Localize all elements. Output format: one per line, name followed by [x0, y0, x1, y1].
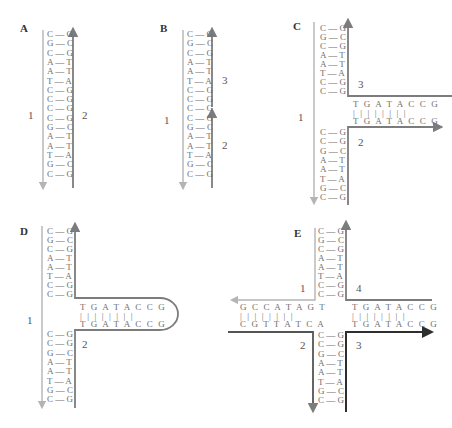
base-pair: C — G	[320, 87, 346, 96]
strand-label-2: 2	[358, 136, 364, 148]
strand-label-3: 3	[356, 339, 362, 351]
base-pair: C — G	[47, 395, 73, 404]
strand-label-1: 1	[28, 109, 34, 121]
strand-label-2: 2	[300, 339, 306, 351]
holliday-junction-figure: A 1 2 C — GG — CC — GA — TA — TT — AC — …	[0, 0, 452, 428]
panel-e-left-bottom: C G T T A T C A	[240, 320, 325, 329]
panel-e-right-bottom: T G A T A C C G	[352, 320, 438, 329]
panel-label-a: A	[20, 22, 28, 34]
base-pair: C — G	[47, 290, 73, 299]
base-pair: C — G	[318, 396, 344, 405]
panel-label-d: D	[20, 225, 28, 237]
strand-label-4: 4	[356, 282, 362, 294]
strand-label-1: 1	[300, 282, 306, 294]
base-pair: C — G	[187, 170, 213, 179]
base-pair: C — G	[318, 290, 344, 299]
strand-label-3: 3	[222, 74, 228, 86]
panel-label-e: E	[294, 227, 301, 239]
panel-label-b: B	[160, 22, 167, 34]
base-pair: C — G	[47, 170, 73, 179]
strand-label-2: 2	[222, 139, 228, 151]
strand-label-2: 2	[82, 109, 88, 121]
base-pair: C — G	[320, 193, 346, 202]
strand-label-2: 2	[82, 338, 88, 350]
panel-label-c: C	[293, 20, 301, 32]
panel-d-loop-bottom: T G A T A C C G	[80, 320, 166, 329]
panel-c-hairpin-bottom: T G A T A C C G	[353, 117, 439, 126]
strand-label-1: 1	[298, 111, 304, 123]
strand-label-1: 1	[27, 314, 33, 326]
strand-label-3: 3	[358, 78, 364, 90]
strand-label-1: 1	[164, 114, 170, 126]
